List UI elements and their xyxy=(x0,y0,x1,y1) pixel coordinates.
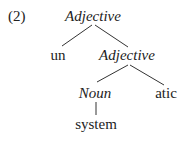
example-number: (2) xyxy=(8,8,26,25)
node-noun: Noun xyxy=(78,85,112,101)
edge-root-adjective xyxy=(95,25,128,47)
edge-root-un xyxy=(62,25,92,46)
node-un: un xyxy=(51,47,67,63)
edge-adjective-noun xyxy=(97,65,128,82)
tree-svg: (2) Adjective un Adjective Noun atic sys… xyxy=(0,0,188,141)
node-atic: atic xyxy=(155,85,177,101)
node-root-adjective: Adjective xyxy=(64,8,121,24)
node-system: system xyxy=(75,116,117,132)
node-adjective-inner: Adjective xyxy=(98,47,155,63)
morphology-tree-diagram: (2) Adjective un Adjective Noun atic sys… xyxy=(0,0,188,141)
edge-adjective-atic xyxy=(130,65,164,85)
